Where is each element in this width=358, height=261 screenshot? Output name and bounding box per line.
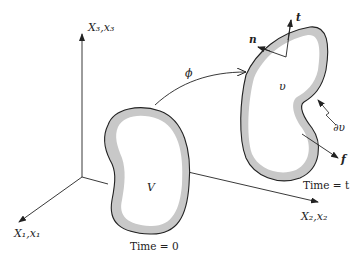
x2-axis-label: X₂,x₂ <box>300 210 327 223</box>
mapping-arrow <box>155 72 246 105</box>
normal-label: n <box>249 33 257 45</box>
x1-axis <box>19 177 82 222</box>
reference-volume-label: V <box>147 181 156 194</box>
boundary-label: ∂υ <box>333 121 345 133</box>
mapping-label: ϕ <box>185 67 193 80</box>
x1-axis-label: X₁,x₁ <box>13 227 40 240</box>
x2-axis-back <box>82 177 108 184</box>
reference-time-label: Time = 0 <box>130 240 179 252</box>
traction-label: t <box>296 11 301 23</box>
current-time-label: Time = t <box>303 179 350 191</box>
current-volume-label: υ <box>279 80 286 93</box>
reference-body <box>105 108 190 234</box>
continuum-deformation-diagram: X₃,x₃ X₁,x₁ X₂,x₂ V Time = 0 υ ∂υ Time =… <box>0 0 358 261</box>
reference-body-interior <box>116 116 182 226</box>
body-force-label: f <box>340 153 348 166</box>
current-body <box>241 27 328 181</box>
x3-axis-label: X₃,x₃ <box>87 21 114 34</box>
